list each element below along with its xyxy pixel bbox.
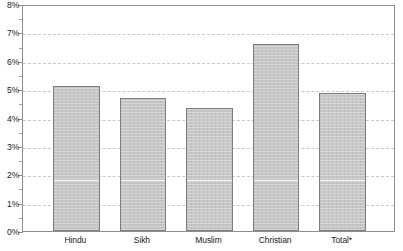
- bar-christian: [253, 44, 300, 231]
- y-axis-label-4: 4%: [0, 114, 19, 124]
- y-tick-major-8: [18, 5, 23, 6]
- bar-chart: 0%1%2%3%4%5%6%7%8% HinduSikhMuslimChrist…: [0, 0, 403, 251]
- bar-inner-gridline: [320, 180, 365, 181]
- gridline-7: [23, 34, 394, 35]
- x-axis-label-sikh: Sikh: [119, 235, 166, 245]
- y-tick-major-4: [18, 119, 23, 120]
- bar-muslim: [186, 108, 233, 231]
- y-tick-minor: [19, 218, 22, 219]
- bar-texture: [187, 109, 232, 230]
- y-tick-major-6: [18, 62, 23, 63]
- y-tick-minor: [19, 189, 22, 190]
- y-tick-minor: [19, 76, 22, 77]
- y-tick-major-7: [18, 33, 23, 34]
- y-axis-label-6: 6%: [0, 57, 19, 67]
- bar-inner-gridline: [54, 180, 99, 181]
- y-tick-major-5: [18, 90, 23, 91]
- bar-hindu: [53, 86, 100, 231]
- plot-area: [22, 5, 395, 232]
- y-axis-label-0: 0%: [0, 227, 19, 237]
- bar-texture: [121, 99, 166, 230]
- bar-sikh: [120, 98, 167, 231]
- y-axis-label-1: 1%: [0, 199, 19, 209]
- y-axis-label-8: 8%: [0, 0, 19, 10]
- bar-texture: [54, 87, 99, 230]
- y-tick-minor: [19, 19, 22, 20]
- gridline-6: [23, 63, 394, 64]
- x-axis-label-christian: Christian: [252, 235, 299, 245]
- y-axis: [22, 5, 23, 232]
- x-axis-label-hindu: Hindu: [52, 235, 99, 245]
- y-axis-label-2: 2%: [0, 170, 19, 180]
- y-tick-major-2: [18, 175, 23, 176]
- y-tick-major-3: [18, 147, 23, 148]
- bar-inner-gridline: [121, 180, 166, 181]
- y-axis-label-3: 3%: [0, 142, 19, 152]
- y-tick-major-0: [18, 232, 23, 233]
- bar-inner-gridline: [187, 180, 232, 181]
- y-tick-minor: [19, 161, 22, 162]
- bar-total-: [319, 93, 366, 231]
- y-tick-minor: [19, 104, 22, 105]
- bar-texture: [320, 94, 365, 230]
- x-axis-label-muslim: Muslim: [185, 235, 232, 245]
- y-tick-minor: [19, 133, 22, 134]
- y-tick-minor: [19, 48, 22, 49]
- y-tick-major-1: [18, 204, 23, 205]
- bar-inner-gridline: [254, 180, 299, 181]
- bar-texture: [254, 45, 299, 230]
- y-axis-label-7: 7%: [0, 28, 19, 38]
- y-axis-label-5: 5%: [0, 85, 19, 95]
- x-axis-label-total-: Total*: [318, 235, 365, 245]
